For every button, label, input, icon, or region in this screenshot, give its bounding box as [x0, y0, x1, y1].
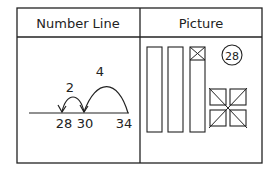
- answer-value: 28: [225, 50, 239, 63]
- header-picture: Picture: [179, 16, 224, 31]
- jump-label-4: 4: [96, 64, 104, 79]
- tick-label-34: 34: [116, 116, 133, 131]
- jump-label-2: 2: [66, 80, 74, 95]
- number-line-picture-table: Number Line Picture 4 2 28 30 34 28: [0, 0, 277, 173]
- tick-label-28: 28: [56, 116, 73, 131]
- jump-arc-2: [62, 97, 84, 112]
- number-line: 4 2 28 30 34: [29, 64, 132, 131]
- ten-bar-1: [147, 47, 162, 132]
- arrowhead-icon: [58, 105, 66, 112]
- header-number-line: Number Line: [36, 16, 119, 31]
- tick-label-30: 30: [77, 116, 94, 131]
- base-ten-picture: 28: [147, 45, 247, 132]
- ten-bar-2: [168, 47, 183, 132]
- jump-arc-4: [84, 87, 128, 113]
